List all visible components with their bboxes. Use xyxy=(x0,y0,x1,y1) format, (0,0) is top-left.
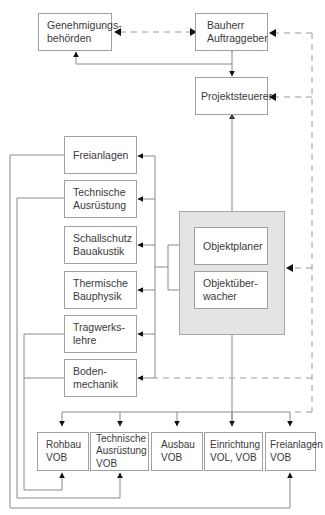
box-label: Genehmigungs- xyxy=(47,19,111,32)
fachplaner-freianlagen-box: Freianlagen xyxy=(64,136,137,174)
box-label: VOB xyxy=(96,458,148,471)
genehmigungsbehoerden-box: Genehmigungs- behörden xyxy=(38,13,112,51)
fachplaner-schallschutz-box: Schallschutz Bauakustik xyxy=(64,226,137,264)
box-label: Schallschutz xyxy=(73,232,136,245)
box-label: VOB xyxy=(46,452,88,465)
box-label: Technische xyxy=(96,433,148,446)
box-label: mechanik xyxy=(73,378,136,391)
box-label: VOB xyxy=(270,452,315,465)
objektplaner-box: Objektplaner xyxy=(194,227,268,265)
projektsteuerer-box: Projektsteuerer xyxy=(195,77,268,115)
gewerk-rohbau-box: Rohbau VOB xyxy=(37,432,89,471)
box-label: Ausrüstung xyxy=(73,199,136,212)
bauherr-box: Bauherr Auftraggeber xyxy=(195,13,268,51)
box-label: Auftraggeber xyxy=(207,32,267,45)
gewerk-einrichtung-box: Einrichtung VOL, VOB xyxy=(204,432,263,471)
box-label: Freianlagen xyxy=(270,439,315,452)
box-label: VOB xyxy=(161,452,202,465)
box-label: Ausrüstung xyxy=(96,445,148,458)
box-label: wacher xyxy=(203,290,267,303)
box-label: Thermische xyxy=(73,277,136,290)
gewerk-ausbau-box: Ausbau VOB xyxy=(151,432,203,471)
box-label: Objektplaner xyxy=(203,240,267,253)
fachplaner-technische-ausruestung-box: Technische Ausrüstung xyxy=(64,180,137,218)
fachplaner-bodenmechanik-box: Boden- mechanik xyxy=(64,359,137,397)
box-label: Technische xyxy=(73,186,136,199)
box-label: Tragwerks- xyxy=(73,321,136,334)
box-label: Bauherr xyxy=(207,19,267,32)
box-label: Rohbau xyxy=(46,439,88,452)
objektueberwacher-box: Objektüber- wacher xyxy=(194,271,268,309)
box-label: Freianlagen xyxy=(73,149,136,162)
box-label: Einrichtung xyxy=(210,439,262,452)
fachplaner-thermische-bauphysik-box: Thermische Bauphysik xyxy=(64,271,137,309)
fachplaner-tragwerkslehre-box: Tragwerks- lehre xyxy=(64,315,137,353)
organization-diagram: Genehmigungs- behörden Bauherr Auftragge… xyxy=(0,0,325,515)
box-label: lehre xyxy=(73,334,136,347)
gewerk-technische-ausruestung-box: Technische Ausrüstung VOB xyxy=(90,432,149,471)
box-label: Ausbau xyxy=(161,439,202,452)
box-label: Objektüber- xyxy=(203,277,267,290)
box-label: Bauphysik xyxy=(73,290,136,303)
box-label: behörden xyxy=(47,32,111,45)
box-label: Projektsteuerer xyxy=(201,90,267,103)
box-label: VOL, VOB xyxy=(210,452,262,465)
gewerk-freianlagen-box: Freianlagen VOB xyxy=(265,432,316,471)
box-label: Boden- xyxy=(73,365,136,378)
box-label: Bauakustik xyxy=(73,245,136,258)
